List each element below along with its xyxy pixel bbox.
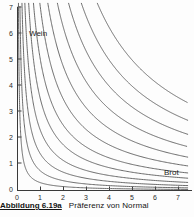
- caption-number: Abbildung 6.19a: [0, 201, 62, 210]
- y-tick-label-3: 3: [3, 108, 13, 115]
- wein-axis-label: Wein: [29, 30, 47, 38]
- y-tick-label-0: 0: [3, 186, 13, 193]
- caption-text: Präferenz von Normal: [69, 201, 149, 210]
- indifference-curve: [25, 3, 188, 182]
- brot-axis-label: Brot: [164, 169, 179, 177]
- y-tick-label-7: 7: [3, 4, 13, 11]
- x-tick-label-7: 7: [173, 194, 183, 201]
- indifference-curve: [57, 3, 186, 146]
- indifference-curve: [48, 3, 188, 157]
- x-tick-label-2: 2: [58, 194, 68, 201]
- x-tick-label-6: 6: [150, 194, 160, 201]
- y-tick-label-6: 6: [3, 30, 13, 37]
- y-tick-label-2: 2: [3, 134, 13, 141]
- x-tick-label-1: 1: [35, 194, 45, 201]
- indifference-curve: [69, 3, 188, 134]
- x-tick-label-0: 0: [12, 194, 22, 201]
- indifference-curve: [40, 3, 188, 166]
- indifference-curve: [81, 3, 187, 120]
- figure-caption: Abbildung 6.19aPräferenz von Normal: [0, 201, 194, 211]
- y-tick-label-4: 4: [3, 82, 13, 89]
- figure-container: 7 6 5 4 3 2 1 0 0 1 2 3 4 5 6 7 Wein Bro…: [0, 0, 194, 217]
- y-tick-label-1: 1: [3, 160, 13, 167]
- y-tick-label-5: 5: [3, 56, 13, 63]
- x-tick-label-4: 4: [104, 194, 114, 201]
- x-tick-label-5: 5: [127, 194, 137, 201]
- x-tick-label-3: 3: [81, 194, 91, 201]
